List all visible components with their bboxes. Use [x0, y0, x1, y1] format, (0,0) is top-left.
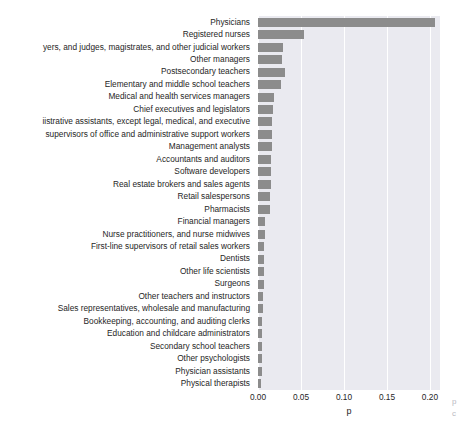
bar[interactable] [258, 379, 261, 388]
bar[interactable] [258, 105, 273, 114]
y-axis-label: Postsecondary teachers [0, 66, 254, 77]
y-axis-label: Pharmacists [0, 204, 254, 215]
y-axis-label: Other psychologists [0, 353, 254, 364]
y-axis-label: Registered nurses [0, 29, 254, 40]
bar[interactable] [258, 30, 304, 39]
bar-row [258, 278, 440, 290]
y-axis-label: Sales representatives, wholesale and man… [0, 303, 254, 314]
bar-row [258, 353, 440, 365]
bar[interactable] [258, 329, 262, 338]
bar[interactable] [258, 255, 264, 264]
bar-row [258, 16, 440, 28]
bar-row [258, 53, 440, 65]
bar[interactable] [258, 242, 264, 251]
bar-row [258, 340, 440, 352]
y-axis-label: Medical and health services managers [0, 91, 254, 102]
y-axis-label: First-line supervisors of retail sales w… [0, 241, 254, 252]
bar-row [258, 365, 440, 377]
y-axis-label: Bookkeeping, accounting, and auditing cl… [0, 316, 254, 327]
x-axis-title: p [258, 406, 440, 416]
x-axis-tick-0.05: 0.05 [293, 392, 309, 402]
x-axis-tick-0.00: 0.00 [250, 392, 266, 402]
y-axis-label: Management analysts [0, 141, 254, 152]
bar[interactable] [258, 43, 283, 52]
bar-row [258, 253, 440, 265]
y-axis-label: Financial managers [0, 216, 254, 227]
bar-row [258, 41, 440, 53]
bar-row [258, 290, 440, 302]
bar-row [258, 191, 440, 203]
bar[interactable] [258, 117, 272, 126]
y-axis-label: Retail salespersons [0, 191, 254, 202]
bar-row [258, 103, 440, 115]
y-axis-label: yers, and judges, magistrates, and other… [0, 42, 254, 53]
bar[interactable] [258, 155, 271, 164]
y-axis-label: Education and childcare administrators [0, 328, 254, 339]
bar[interactable] [258, 192, 270, 201]
bar[interactable] [258, 80, 281, 89]
bar[interactable] [258, 342, 262, 351]
bar[interactable] [258, 93, 274, 102]
bar-row [258, 128, 440, 140]
bar[interactable] [258, 230, 265, 239]
y-axis-label: iistrative assistants, except legal, med… [0, 116, 254, 127]
bar[interactable] [258, 292, 263, 301]
bar-row [258, 78, 440, 90]
bar-row [258, 378, 440, 390]
bar[interactable] [258, 317, 262, 326]
y-axis-label: Physicians [0, 17, 254, 28]
edge-fragment: p [452, 396, 466, 408]
bar-chart-figure: PhysiciansRegistered nursesyers, and jud… [0, 0, 466, 437]
bar-row [258, 203, 440, 215]
bar-row [258, 116, 440, 128]
x-axis-tick-0.20: 0.20 [422, 392, 438, 402]
y-axis-label: Nurse practitioners, and nurse midwives [0, 229, 254, 240]
y-axis-label: Chief executives and legislators [0, 104, 254, 115]
y-axis-category-labels: PhysiciansRegistered nursesyers, and jud… [0, 16, 254, 390]
bar[interactable] [258, 267, 264, 276]
bar[interactable] [258, 180, 271, 189]
bar-row [258, 141, 440, 153]
bar[interactable] [258, 167, 271, 176]
bar[interactable] [258, 55, 282, 64]
bar-series [258, 16, 440, 390]
y-axis-label: Other life scientists [0, 266, 254, 277]
bar[interactable] [258, 18, 435, 27]
bar-row [258, 265, 440, 277]
bar-row [258, 328, 440, 340]
x-axis-tick-0.10: 0.10 [336, 392, 352, 402]
y-axis-label: Surgeons [0, 278, 254, 289]
bar-row [258, 66, 440, 78]
bar-row [258, 166, 440, 178]
y-axis-label: Accountants and auditors [0, 154, 254, 165]
y-axis-label: Real estate brokers and sales agents [0, 179, 254, 190]
bar-row [258, 28, 440, 40]
bar-row [258, 240, 440, 252]
bar-row [258, 228, 440, 240]
y-axis-label: Secondary school teachers [0, 341, 254, 352]
y-axis-label: supervisors of office and administrative… [0, 129, 254, 140]
bar-row [258, 315, 440, 327]
bar[interactable] [258, 142, 272, 151]
bar[interactable] [258, 68, 285, 77]
bar[interactable] [258, 130, 272, 139]
bar-row [258, 215, 440, 227]
bar[interactable] [258, 304, 263, 313]
cropped-edge-text: pc [452, 396, 466, 420]
y-axis-label: Other managers [0, 54, 254, 65]
bar[interactable] [258, 367, 262, 376]
x-axis-tick-labels: 0.000.050.100.150.20 [258, 392, 440, 406]
bar-row [258, 178, 440, 190]
y-axis-label: Other teachers and instructors [0, 291, 254, 302]
bar[interactable] [258, 205, 270, 214]
y-axis-label: Elementary and middle school teachers [0, 79, 254, 90]
bar-row [258, 303, 440, 315]
bar[interactable] [258, 280, 264, 289]
y-axis-label: Dentists [0, 253, 254, 264]
x-axis-tick-0.15: 0.15 [379, 392, 395, 402]
bar[interactable] [258, 354, 262, 363]
bar-row [258, 153, 440, 165]
bar-row [258, 91, 440, 103]
bar[interactable] [258, 217, 265, 226]
edge-fragment: c [452, 408, 466, 420]
